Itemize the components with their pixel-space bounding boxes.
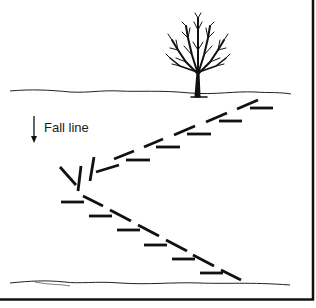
switchback-diagram — [0, 0, 316, 308]
fall-line-label: Fall line — [44, 120, 89, 135]
fall-line-arrow-icon — [31, 116, 37, 143]
lower-trail-leg — [61, 196, 241, 280]
upper-trail-leg — [96, 100, 273, 172]
frame-border — [0, 0, 314, 300]
switchback-turn — [60, 157, 94, 191]
tree-icon — [166, 13, 230, 97]
upper-ground-line — [10, 90, 291, 94]
